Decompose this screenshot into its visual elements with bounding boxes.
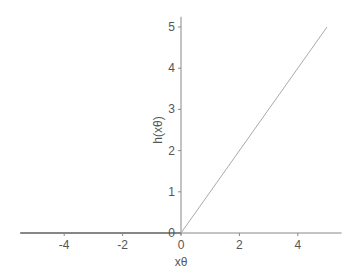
ticks-layer: -4-2024012345	[59, 20, 302, 252]
axes	[20, 17, 341, 235]
y-tick-label: 2	[168, 144, 175, 158]
series-layer	[20, 27, 327, 233]
x-tick-label: 0	[178, 238, 185, 252]
x-tick-label: -4	[59, 238, 70, 252]
y-tick-label: 5	[168, 20, 175, 34]
x-axis-title: xθ	[175, 255, 188, 269]
y-tick-label: 3	[168, 102, 175, 116]
y-tick-label: 0	[168, 226, 175, 240]
relu-chart: -4-2024012345 xθ h(xθ)	[0, 0, 360, 279]
series-line	[20, 27, 327, 233]
x-tick-label: 4	[294, 238, 301, 252]
y-tick-label: 4	[168, 61, 175, 75]
x-tick-label: -2	[117, 238, 128, 252]
y-axis-title: h(xθ)	[151, 116, 165, 143]
y-tick-label: 1	[168, 185, 175, 199]
x-tick-label: 2	[236, 238, 243, 252]
